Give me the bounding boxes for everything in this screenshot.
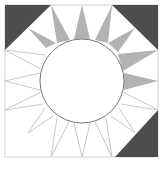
- center-circle: [40, 39, 124, 123]
- quilt-block-diagram: [0, 0, 167, 175]
